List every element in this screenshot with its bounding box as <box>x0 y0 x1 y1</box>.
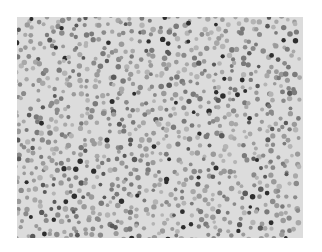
cell <box>119 56 123 60</box>
cell <box>255 84 260 89</box>
cell <box>284 121 288 125</box>
cell <box>63 199 68 204</box>
cell <box>189 162 193 166</box>
cell <box>274 31 278 35</box>
cell <box>174 234 178 238</box>
cell <box>101 111 107 117</box>
cell <box>111 112 116 117</box>
cell <box>130 49 135 54</box>
cell <box>229 47 235 53</box>
cell <box>241 143 246 148</box>
cell <box>293 127 299 133</box>
cell <box>83 23 87 27</box>
cell <box>24 207 29 212</box>
cell <box>192 55 197 60</box>
cell <box>153 199 159 205</box>
cell <box>246 62 251 67</box>
cell <box>265 191 270 196</box>
cell <box>189 175 194 180</box>
cell <box>210 206 215 211</box>
cell <box>189 222 193 226</box>
cell <box>63 123 67 127</box>
cell <box>265 183 270 188</box>
cell <box>296 164 301 169</box>
cell <box>73 175 78 180</box>
cell <box>134 207 138 211</box>
cell <box>238 30 243 35</box>
cell <box>33 186 38 191</box>
cell <box>248 205 252 209</box>
cell <box>282 134 287 139</box>
cell <box>255 113 259 117</box>
cell <box>210 215 216 221</box>
cell <box>66 17 71 21</box>
cell <box>206 233 210 237</box>
cell <box>181 53 186 58</box>
cell <box>138 144 143 149</box>
cell <box>134 127 138 131</box>
cell <box>123 209 128 214</box>
cell <box>89 232 94 237</box>
cell <box>197 124 201 128</box>
cell <box>239 217 243 221</box>
cell <box>274 69 279 74</box>
cell <box>241 233 245 237</box>
cell <box>166 218 170 222</box>
cell <box>214 90 218 94</box>
cell <box>27 188 32 193</box>
cell <box>72 27 76 31</box>
cell <box>62 230 66 234</box>
cell <box>52 39 56 43</box>
cell <box>30 234 35 238</box>
cell <box>57 206 61 210</box>
cell <box>88 114 94 120</box>
cell <box>31 138 35 142</box>
cell <box>216 26 221 31</box>
cell <box>284 194 288 198</box>
cell <box>49 158 54 163</box>
cell <box>190 189 195 194</box>
cell <box>158 177 163 182</box>
cell <box>116 64 122 69</box>
cell <box>52 192 56 196</box>
cell <box>84 85 88 89</box>
cell <box>248 86 252 90</box>
cell <box>269 227 273 231</box>
cell <box>285 47 290 52</box>
cell <box>197 224 201 228</box>
cell <box>227 152 232 157</box>
cell <box>44 218 49 223</box>
cell <box>45 184 49 188</box>
cell <box>41 161 46 166</box>
cell <box>127 77 131 81</box>
cell <box>129 205 133 209</box>
cell <box>121 237 126 238</box>
cell <box>292 50 296 54</box>
cell <box>280 218 285 223</box>
cell <box>176 17 180 19</box>
cell <box>123 49 127 53</box>
cell <box>282 142 286 146</box>
cell <box>30 171 34 175</box>
cell <box>296 220 302 226</box>
cell <box>287 96 292 101</box>
cell <box>231 108 236 113</box>
cell <box>25 22 30 27</box>
cell <box>252 183 256 187</box>
cell <box>55 212 60 217</box>
cell <box>37 227 41 231</box>
cell <box>135 175 140 180</box>
cell <box>279 211 284 216</box>
cell <box>53 94 57 98</box>
cell <box>181 225 186 230</box>
cell <box>96 164 101 169</box>
cell <box>173 23 179 29</box>
cell <box>149 72 153 76</box>
cell <box>220 70 225 75</box>
cell <box>207 100 211 104</box>
cell <box>255 158 259 162</box>
cell <box>271 25 276 30</box>
cell <box>223 29 228 34</box>
cell <box>187 136 193 142</box>
cell <box>121 128 126 133</box>
